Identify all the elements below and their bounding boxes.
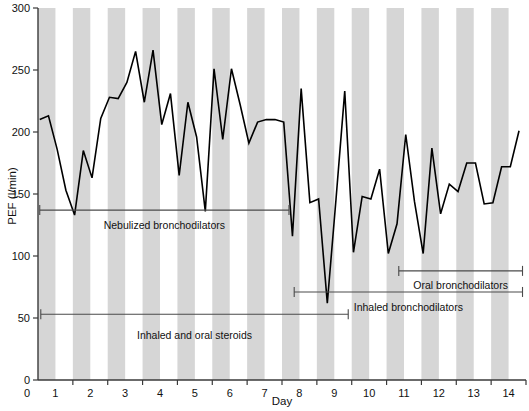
x-tick-label: 3 <box>122 387 128 399</box>
night-band <box>352 8 369 380</box>
y-tick-label: 200 <box>12 126 30 138</box>
y-tick-label: 50 <box>18 312 30 324</box>
x-tick-label: 8 <box>296 387 302 399</box>
x-tick-label: 1 <box>52 387 58 399</box>
night-band <box>108 8 125 380</box>
x-tick-label: 9 <box>331 387 337 399</box>
night-band <box>456 8 473 380</box>
x-tick-label: 6 <box>227 387 233 399</box>
night-band <box>212 8 229 380</box>
x-tick-label: 2 <box>87 387 93 399</box>
night-band <box>282 8 299 380</box>
y-tick-label: 300 <box>12 2 30 14</box>
night-band <box>38 8 55 380</box>
x-tick-label: 13 <box>468 387 480 399</box>
y-tick-label: 100 <box>12 250 30 262</box>
annotation-label: Inhaled bronchodilators <box>354 301 463 313</box>
chart-canvas: 050100150200250300 12345678910111213140 … <box>0 0 529 411</box>
x-tick-label: 14 <box>502 387 514 399</box>
night-band <box>177 8 194 380</box>
x-tick-label: 12 <box>433 387 445 399</box>
night-band <box>421 8 438 380</box>
x-tick-label: 10 <box>363 387 375 399</box>
x-tick-label: 5 <box>192 387 198 399</box>
x-origin-label: 0 <box>24 387 30 399</box>
annotation-label: Nebulized bronchodilators <box>104 219 225 231</box>
x-tick-label: 4 <box>157 387 163 399</box>
y-axis-title: PEF (l/min) <box>6 167 18 225</box>
night-band <box>317 8 334 380</box>
annotation-label: Oral bronchodilators <box>413 279 508 291</box>
pef-diary-chart: 050100150200250300 12345678910111213140 … <box>0 0 529 411</box>
x-tick-label: 7 <box>262 387 268 399</box>
y-tick-label: 0 <box>24 374 30 386</box>
annotation-label: Inhaled and oral steroids <box>137 329 252 341</box>
night-band <box>247 8 264 380</box>
x-axis-title: Day <box>272 395 293 407</box>
night-band <box>491 8 508 380</box>
x-tick-label: 11 <box>398 387 409 399</box>
night-band <box>73 8 90 380</box>
night-band <box>387 8 404 380</box>
y-tick-label: 250 <box>12 64 30 76</box>
